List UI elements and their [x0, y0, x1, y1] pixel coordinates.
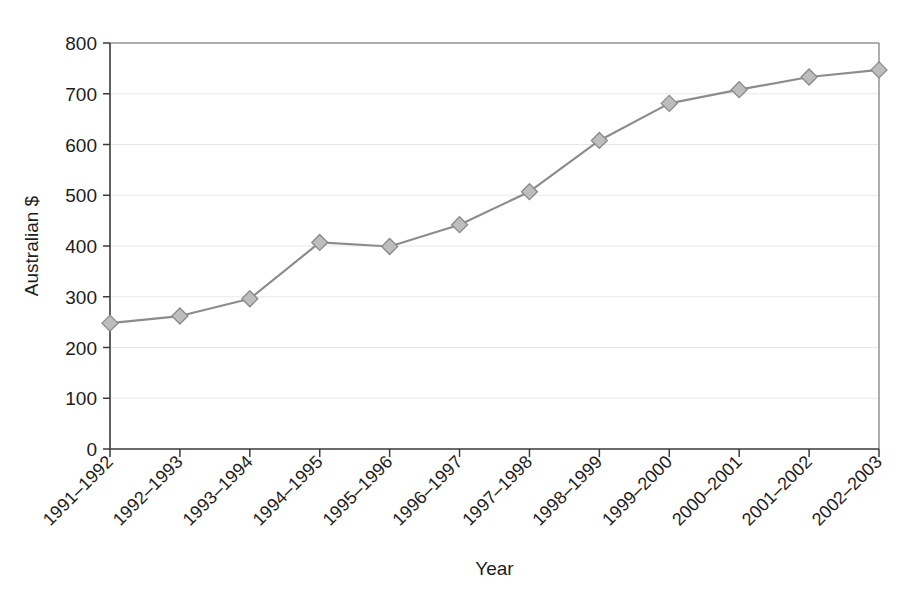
data-point-marker	[172, 308, 188, 324]
x-category-labels: 1991–19921992–19931993–19941994–19951995…	[39, 452, 886, 530]
data-point-marker	[521, 184, 537, 200]
grid-lines	[110, 43, 879, 398]
data-point-marker	[871, 62, 887, 78]
x-category-label: 1997–1998	[458, 452, 536, 530]
data-point-marker	[591, 132, 607, 148]
x-category-label: 1995–1996	[319, 452, 397, 530]
x-axis-title: Year	[475, 558, 514, 579]
data-point-marker	[452, 217, 468, 233]
y-tick-label: 600	[65, 135, 97, 156]
data-point-marker	[382, 239, 398, 255]
data-point-marker	[102, 315, 118, 331]
x-category-label: 1999–2000	[598, 452, 676, 530]
x-category-label: 1996–1997	[389, 452, 467, 530]
data-point-marker	[801, 69, 817, 85]
y-tick-label: 400	[65, 236, 97, 257]
x-category-label: 1998–1999	[528, 452, 606, 530]
x-category-label: 1994–1995	[249, 452, 327, 530]
data-point-markers	[102, 62, 887, 331]
series-polyline	[110, 70, 879, 323]
chart-canvas: 0100200300400500600700800 1991–19921992–…	[0, 0, 916, 599]
x-category-label: 2001–2002	[738, 452, 816, 530]
x-category-label: 1991–1992	[39, 452, 117, 530]
x-category-label: 2002–2003	[808, 452, 886, 530]
x-category-label: 1993–1994	[179, 452, 257, 530]
x-category-label: 2000–2001	[668, 452, 746, 530]
x-axis	[110, 449, 879, 457]
y-tick-label: 800	[65, 33, 97, 54]
y-tick-label: 700	[65, 84, 97, 105]
data-point-marker	[731, 82, 747, 98]
data-series-line	[110, 70, 879, 323]
x-category-label: 1992–1993	[109, 452, 187, 530]
data-point-marker	[661, 95, 677, 111]
y-tick-label: 300	[65, 287, 97, 308]
y-tick-label: 200	[65, 338, 97, 359]
y-axis-title: Australian $	[21, 195, 42, 296]
y-tick-label: 0	[86, 439, 97, 460]
y-axis	[103, 43, 110, 449]
line-chart: 0100200300400500600700800 1991–19921992–…	[0, 0, 916, 599]
y-tick-label: 100	[65, 388, 97, 409]
y-tick-labels: 0100200300400500600700800	[65, 33, 97, 460]
y-tick-label: 500	[65, 185, 97, 206]
